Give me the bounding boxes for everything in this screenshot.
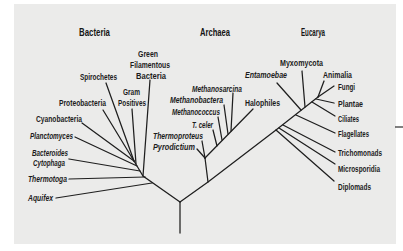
- label-green-filamentous-line3: Bacteria: [136, 70, 167, 81]
- label-plantae: Plantae: [338, 98, 363, 109]
- label-trichomonads: Trichomonads: [338, 147, 382, 158]
- label-diplomads: Diplomads: [338, 181, 371, 192]
- label-green-filamentous-line2: Filamentous: [130, 59, 170, 70]
- label-ciliates: Ciliates: [338, 113, 359, 124]
- label-spirochetes: Spirochetes: [80, 71, 117, 82]
- label-proteobacteria: Proteobacteria: [59, 97, 106, 108]
- label-flagellates: Flagellates: [338, 128, 369, 139]
- label-methanococcus: Methanococcus: [172, 106, 220, 117]
- label-planctomyces: Planctomyces: [30, 130, 73, 141]
- header-archaea: Archaea: [200, 26, 230, 38]
- label-t-celer: T. celer: [192, 119, 214, 130]
- label-gram-positives-line1: Gram: [123, 86, 140, 97]
- label-entamoebae: Entamoebae: [245, 69, 287, 80]
- phylogenetic-tree-figure: Bacteria Archaea Eucarya Green Filamento…: [0, 0, 403, 251]
- label-cytophaga: Cytophaga: [33, 157, 65, 168]
- label-halophiles: Halophiles: [245, 97, 280, 108]
- label-animalia: Animalia: [323, 69, 352, 80]
- label-pyrodictium: Pyrodictium: [153, 141, 195, 152]
- label-fungi: Fungi: [338, 81, 355, 92]
- label-gram-positives-line2: Positives: [118, 97, 146, 108]
- label-methanobactera: Methanobactera: [170, 94, 223, 105]
- label-aquifex: Aquifex: [27, 192, 53, 203]
- header-eucarya: Eucarya: [301, 26, 325, 38]
- label-microsporidia: Microsporidia: [338, 163, 380, 174]
- label-thermotoga: Thermotoga: [28, 173, 67, 184]
- label-thermoproteus: Thermoproteus: [153, 130, 203, 141]
- tree-canvas: Bacteria Archaea Eucarya Green Filamento…: [0, 0, 403, 251]
- label-myxomycota: Myxomycota: [280, 57, 323, 68]
- label-green-filamentous-line1: Green: [138, 48, 158, 59]
- label-methanosarcina: Methanosarcina: [192, 83, 242, 94]
- label-cyanobacteria: Cyanobacteria: [36, 113, 82, 124]
- header-bacteria: Bacteria: [79, 26, 110, 38]
